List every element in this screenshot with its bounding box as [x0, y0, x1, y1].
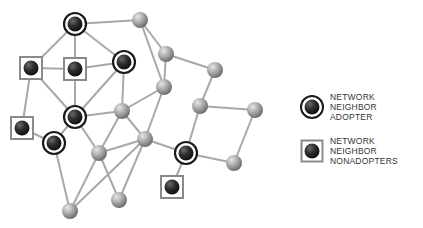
node-gray: [111, 192, 127, 208]
node-gray: [132, 12, 148, 28]
edge: [145, 87, 164, 139]
node-adopter: [43, 132, 65, 154]
adopter-legend-icon: [300, 95, 324, 119]
edge: [234, 110, 255, 163]
edge: [200, 106, 255, 110]
node-gray: [226, 155, 242, 171]
node-gray: [192, 98, 208, 114]
node-gray: [91, 145, 107, 161]
nonadopter-legend-icon: [300, 139, 324, 163]
legend-adopter-label: NETWORK NEIGHBOR ADOPTER: [330, 92, 377, 122]
edge: [119, 139, 145, 200]
node-gray: [207, 62, 223, 78]
node-gray: [137, 131, 153, 147]
node-adopter: [113, 51, 135, 73]
node-gray: [62, 203, 78, 219]
edges: [22, 20, 255, 211]
legend-nonadopter: NETWORK NEIGHBOR NONADOPTERS: [300, 136, 398, 166]
node-nonadopter: [161, 176, 183, 198]
node-nonadopter: [64, 58, 86, 80]
legend-nonadopter-label: NETWORK NEIGHBOR NONADOPTERS: [330, 136, 398, 166]
node-adopter: [64, 13, 86, 35]
node-adopter: [175, 142, 197, 164]
node-adopter: [64, 106, 86, 128]
node-gray: [158, 46, 174, 62]
legend-adopter: NETWORK NEIGHBOR ADOPTER: [300, 92, 377, 122]
node-nonadopter: [20, 57, 42, 79]
edge: [70, 153, 99, 211]
node-gray: [156, 79, 172, 95]
node-nonadopter: [11, 117, 33, 139]
node-gray: [114, 103, 130, 119]
node-gray: [247, 102, 263, 118]
nodes: [11, 12, 263, 219]
